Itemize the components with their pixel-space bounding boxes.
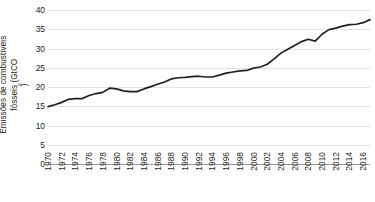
x-tick-label-1996: 1996: [221, 152, 231, 188]
x-tick-label-2002: 2002: [262, 152, 272, 188]
x-tick-label-2004: 2004: [276, 152, 286, 188]
y-tick-label-30: 30: [28, 44, 45, 52]
y-tick-label-15: 15: [28, 102, 45, 110]
x-tick-label-1970: 1970: [43, 152, 53, 188]
x-tick-label-2008: 2008: [303, 152, 313, 188]
x-tick-label-2014: 2014: [344, 152, 354, 188]
y-tick-label-40: 40: [28, 6, 45, 14]
y-axis-title-line1: Emissões de combustíveis: [0, 36, 10, 134]
y-tick-label-25: 25: [28, 64, 45, 72]
x-tick-label-2010: 2010: [317, 152, 327, 188]
emissions-line-chart: Emissões de combustíveis fósseis (GtCO2)…: [0, 0, 375, 202]
x-tick-label-2012: 2012: [331, 152, 341, 188]
series-polyline: [48, 20, 370, 107]
y-axis-title: Emissões de combustíveis fósseis (GtCO2): [0, 0, 30, 170]
y-tick-label-35: 35: [28, 25, 45, 33]
x-tick-label-1980: 1980: [112, 152, 122, 188]
x-tick-label-1978: 1978: [98, 152, 108, 188]
x-tick-label-1998: 1998: [235, 152, 245, 188]
y-tick-label-10: 10: [28, 121, 45, 129]
x-tick-label-1976: 1976: [84, 152, 94, 188]
plot-area: [48, 10, 370, 164]
x-tick-label-1974: 1974: [70, 152, 80, 188]
x-tick-label-1992: 1992: [194, 152, 204, 188]
x-tick-label-1982: 1982: [125, 152, 135, 188]
x-axis-tick-labels: 1970197219741976197819801982198419861988…: [48, 165, 370, 202]
x-tick-label-1986: 1986: [153, 152, 163, 188]
x-tick-label-2006: 2006: [290, 152, 300, 188]
x-tick-label-1990: 1990: [180, 152, 190, 188]
x-tick-label-2000: 2000: [249, 152, 259, 188]
y-axis-tick-labels: 0510152025303540: [28, 9, 45, 165]
x-tick-label-1988: 1988: [166, 152, 176, 188]
x-tick-label-1994: 1994: [207, 152, 217, 188]
x-tick-label-1972: 1972: [57, 152, 67, 188]
y-tick-label-5: 5: [28, 141, 45, 149]
y-tick-label-20: 20: [28, 83, 45, 91]
series-line-emissions: [48, 10, 370, 164]
x-tick-label-2016: 2016: [358, 152, 368, 188]
x-tick-label-1984: 1984: [139, 152, 149, 188]
